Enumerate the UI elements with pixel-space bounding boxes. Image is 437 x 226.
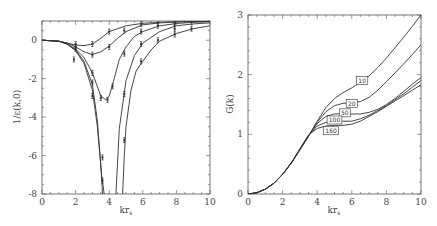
x-tick-label: 10	[204, 197, 216, 207]
y-tick-label: 2	[237, 70, 243, 80]
data-point	[140, 60, 142, 62]
x-tick-label: 4	[314, 197, 320, 207]
right-plot-gk: 02468100123102050100160	[237, 10, 427, 207]
left-ylabel: 1/ε(k,0)	[12, 90, 22, 124]
data-point	[91, 54, 93, 56]
data-point	[75, 48, 77, 50]
data-point	[107, 99, 109, 101]
data-point	[191, 21, 193, 23]
data-point	[101, 180, 103, 182]
x-tick-label: 8	[174, 197, 180, 207]
y-tick-label: 3	[237, 10, 243, 20]
data-point	[157, 25, 159, 27]
series-curve-curve3	[42, 22, 210, 100]
data-point	[140, 31, 142, 33]
left-xlabel: krs	[120, 205, 133, 216]
x-tick-label: 2	[73, 197, 79, 207]
data-point	[157, 39, 159, 41]
figure: 02468100-2-4-6-8 02468100123102050100160…	[0, 0, 437, 226]
x-tick-label: 6	[140, 197, 146, 207]
data-point	[112, 85, 114, 87]
series-curve-curve4b	[116, 23, 210, 194]
curve-label: 50	[341, 109, 349, 116]
x-tick-label: 0	[245, 197, 251, 207]
data-point	[174, 22, 176, 24]
curve-label: 160	[325, 127, 337, 134]
series-curve-160	[248, 85, 421, 194]
y-tick-label: -2	[28, 74, 37, 84]
curve-label: 100	[329, 116, 341, 123]
data-point	[100, 97, 102, 99]
data-point	[140, 43, 142, 45]
data-point	[191, 28, 193, 30]
y-tick-label: 0	[237, 189, 243, 199]
y-tick-label: -4	[28, 112, 37, 122]
series-curve-50	[248, 78, 421, 194]
x-tick-label: 8	[384, 197, 390, 207]
data-point	[140, 23, 142, 25]
x-tick-label: 10	[415, 197, 427, 207]
data-point	[174, 28, 176, 30]
right-ylabel: G(k)	[225, 94, 235, 114]
data-point	[174, 33, 176, 35]
data-point	[91, 82, 93, 84]
data-point	[91, 72, 93, 74]
data-point	[123, 93, 125, 95]
data-point	[91, 95, 93, 97]
x-tick-label: 4	[106, 197, 112, 207]
curve-label: 20	[348, 100, 356, 107]
series-curve-10	[248, 15, 421, 194]
x-tick-label: 2	[280, 197, 286, 207]
data-point	[101, 156, 103, 158]
x-tick-label: 6	[349, 197, 355, 207]
left-plot-epsilon: 02468100-2-4-6-8	[28, 19, 216, 207]
y-tick-label: 0	[31, 35, 37, 45]
series-curve-curve4	[42, 40, 103, 194]
data-point	[123, 53, 125, 55]
data-point	[91, 43, 93, 45]
x-tick-label: 0	[39, 197, 45, 207]
data-point	[108, 46, 110, 48]
data-point	[123, 139, 125, 141]
data-point	[123, 30, 125, 32]
data-point	[73, 58, 75, 60]
y-tick-label: -8	[28, 189, 37, 199]
right-xlabel: krs	[328, 205, 341, 216]
curve-label: 10	[358, 77, 366, 84]
series-curve-curve2	[42, 21, 210, 54]
plot-frame	[248, 15, 421, 194]
y-tick-label: 1	[237, 129, 243, 139]
y-tick-label: -6	[28, 151, 37, 161]
series-curve-curve5b	[123, 26, 210, 194]
series-curve-curve5	[42, 40, 104, 194]
series-curve-100	[248, 81, 421, 194]
data-point	[108, 31, 110, 33]
